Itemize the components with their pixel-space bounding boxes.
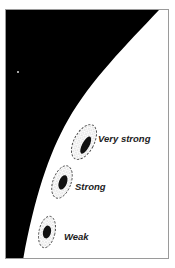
feature-strong bbox=[48, 163, 77, 201]
feature-very-strong bbox=[66, 121, 101, 164]
label-strong: Strong bbox=[75, 181, 106, 192]
label-weak: Weak bbox=[64, 231, 89, 242]
star-dot bbox=[17, 71, 19, 73]
feature-weak bbox=[36, 215, 58, 250]
label-very-strong: Very strong bbox=[98, 133, 150, 144]
diagram-frame: Very strong Strong Weak bbox=[5, 9, 169, 259]
